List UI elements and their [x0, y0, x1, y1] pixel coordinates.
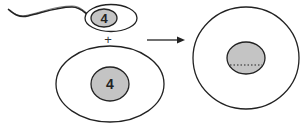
sperm-cell: 4 [8, 5, 137, 32]
zygote-cell [193, 7, 299, 109]
egg-cell: 4 [56, 46, 164, 122]
egg-chromosome-count: 4 [106, 76, 114, 92]
arrow-icon [147, 37, 185, 44]
sperm-tail [8, 7, 88, 17]
sperm-chromosome-count: 4 [100, 11, 108, 26]
plus-sign: + [104, 32, 112, 47]
fertilization-diagram: 4 + 4 [0, 0, 302, 125]
zygote-nucleus [227, 42, 265, 74]
